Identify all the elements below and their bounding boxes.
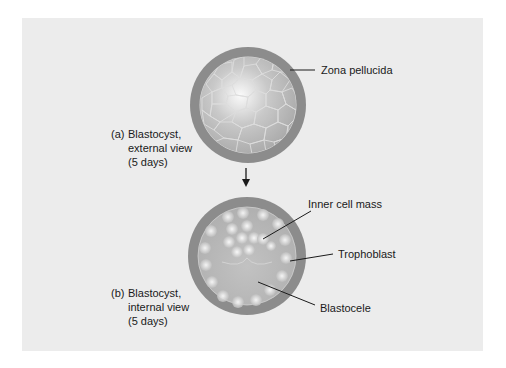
down-arrow-icon (242, 168, 250, 187)
caption-a-line-2: external view (128, 141, 192, 155)
blastocyst-internal (188, 197, 306, 315)
caption-b-line-2: internal view (128, 300, 189, 314)
label-blastocele: Blastocele (320, 301, 371, 315)
blastocyst-external (190, 47, 306, 163)
caption-a-line-3: (5 days) (128, 155, 192, 169)
caption-a-line-1: Blastocyst, (128, 127, 192, 141)
label-inner-cell-mass: Inner cell mass (308, 197, 382, 211)
label-zona-pellucida: Zona pellucida (321, 63, 393, 77)
blastocyst-illustration (0, 0, 506, 368)
caption-b-letter: (b) (111, 286, 124, 300)
caption-b-line-3: (5 days) (128, 314, 189, 328)
caption-a-letter: (a) (111, 127, 124, 141)
label-trophoblast: Trophoblast (338, 247, 396, 261)
caption-b-line-1: Blastocyst, (128, 286, 189, 300)
